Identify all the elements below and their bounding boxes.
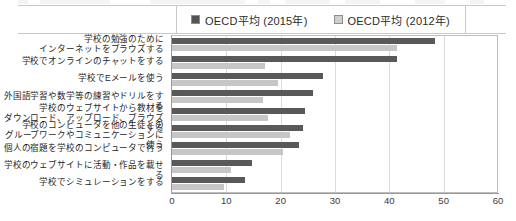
bar-2015[interactable]	[172, 90, 313, 96]
x-tick-label-40: 40	[384, 195, 395, 206]
bar-row[interactable]	[172, 38, 498, 51]
legend-swatch-2015-icon	[191, 15, 200, 24]
bar-2015[interactable]	[172, 108, 305, 114]
bar-row[interactable]	[172, 73, 498, 86]
legend-swatch-2012-icon	[334, 15, 343, 24]
bar-2015[interactable]	[172, 142, 299, 148]
bar-2012[interactable]	[172, 80, 278, 86]
x-tick-label-60: 60	[493, 195, 504, 206]
bar-2012[interactable]	[172, 132, 290, 138]
ghost-mark	[345, 0, 380, 4]
category-label: 学校でEメールを使う	[78, 73, 164, 83]
x-tick-label-0: 0	[169, 195, 174, 206]
bar-row[interactable]	[172, 177, 498, 190]
bar-2012[interactable]	[172, 97, 263, 103]
x-axis-tick-labels: 0102030405060	[0, 195, 516, 211]
legend-band: OECD平均 (2015年) OECD平均 (2012年)	[18, 6, 506, 34]
x-tick-label-20: 20	[275, 195, 286, 206]
legend-label-2012: OECD平均 (2012年)	[348, 12, 450, 28]
bar-2012[interactable]	[172, 149, 283, 155]
bar-rows	[172, 36, 498, 192]
bar-row[interactable]	[172, 108, 498, 121]
category-label: 学校の勉強のために インターネットをブラウズする	[39, 34, 164, 54]
category-axis-labels: 学校の勉強のために インターネットをブラウズする学校でオンラインのチャットをする…	[0, 35, 168, 193]
x-axis-line	[171, 193, 499, 194]
bar-2012[interactable]	[172, 115, 268, 121]
bar-row[interactable]	[172, 125, 498, 138]
bar-2015[interactable]	[172, 56, 397, 62]
bar-2012[interactable]	[172, 167, 231, 173]
category-label: 学校でオンラインのチャットをする	[22, 56, 164, 66]
bar-2015[interactable]	[172, 38, 435, 44]
legend-item-2012[interactable]: OECD平均 (2012年)	[334, 12, 450, 28]
category-label: 個人の宿題を学校のコンピュータで行う	[4, 143, 164, 153]
bar-row[interactable]	[172, 90, 498, 103]
ghost-mark	[470, 0, 484, 4]
legend-divider-right	[465, 6, 466, 33]
legend-item-2015[interactable]: OECD平均 (2015年)	[191, 12, 307, 28]
bar-2015[interactable]	[172, 177, 245, 183]
bar-row[interactable]	[172, 160, 498, 173]
x-tick-label-50: 50	[438, 195, 449, 206]
bar-2012[interactable]	[172, 45, 397, 51]
x-tick-label-30: 30	[330, 195, 341, 206]
bar-2015[interactable]	[172, 160, 252, 166]
ghost-mark	[285, 0, 330, 4]
ghost-mark	[258, 0, 270, 4]
bar-2012[interactable]	[172, 63, 265, 69]
chart-legend: OECD平均 (2015年) OECD平均 (2012年)	[176, 6, 465, 33]
bar-2012[interactable]	[172, 184, 224, 190]
ghost-mark	[150, 0, 245, 4]
bar-row[interactable]	[172, 56, 498, 69]
ghost-mark	[18, 0, 28, 4]
x-tick-label-10: 10	[221, 195, 232, 206]
legend-label-2015: OECD平均 (2015年)	[205, 12, 307, 28]
bar-row[interactable]	[172, 142, 498, 155]
category-label: 学校でシミュレーションをする	[39, 177, 164, 187]
ghost-mark	[40, 0, 110, 4]
bar-2015[interactable]	[172, 125, 303, 131]
bar-chart: 学校の勉強のために インターネットをブラウズする学校でオンラインのチャットをする…	[0, 35, 516, 221]
bar-2015[interactable]	[172, 73, 323, 79]
ghost-mark	[415, 0, 445, 4]
